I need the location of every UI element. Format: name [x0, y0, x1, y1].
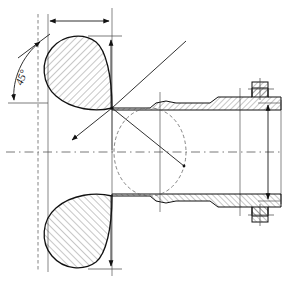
diagonal-lower-left: [72, 108, 112, 140]
angle-label: 45°: [13, 67, 30, 86]
intersection-node-lower: [183, 165, 186, 168]
diagonal-lower-right: [112, 108, 184, 166]
teardrop-upper: [44, 36, 112, 110]
cross-section-svg: 45°: [0, 0, 286, 282]
engineering-drawing-canvas: 45°: [0, 0, 286, 282]
teardrop-lower: [44, 194, 112, 268]
teardrop-lower-body: [44, 194, 112, 268]
teardrop-upper-body: [44, 36, 112, 110]
angle-ray: [18, 34, 50, 58]
diagonal-upper-right: [112, 41, 186, 108]
